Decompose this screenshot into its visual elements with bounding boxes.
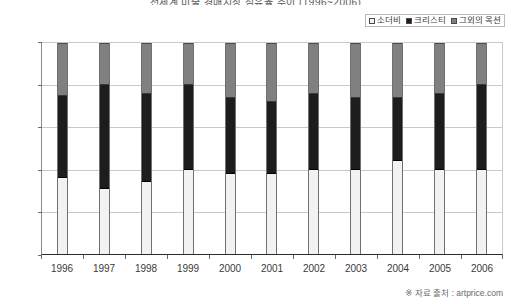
x-axis-tick-text: 1997 bbox=[93, 263, 115, 274]
bar-segment-sothebys[interactable] bbox=[58, 178, 67, 254]
stacked-bar[interactable] bbox=[392, 43, 403, 254]
plot-wrapper: 0%20%40%60%80%100% bbox=[41, 42, 503, 255]
x-axis-tick bbox=[377, 255, 378, 259]
y-axis-tick bbox=[38, 212, 42, 213]
bar-segment-other-auctions[interactable] bbox=[393, 43, 402, 98]
bar-segment-christies[interactable] bbox=[142, 94, 151, 183]
x-axis-tick-text: 1996 bbox=[51, 263, 73, 274]
x-axis-tick-label: 1999 bbox=[167, 255, 209, 281]
x-axis-tick bbox=[335, 255, 336, 259]
x-axis-tick-text: 2000 bbox=[219, 263, 241, 274]
x-axis-tick bbox=[209, 255, 210, 259]
x-axis-tick bbox=[419, 255, 420, 259]
x-axis-tick-text: 1998 bbox=[135, 263, 157, 274]
x-axis-tick bbox=[293, 255, 294, 259]
bar-slot bbox=[126, 43, 168, 254]
x-axis-tick-label: 2003 bbox=[335, 255, 377, 281]
bar-segment-christies[interactable] bbox=[309, 94, 318, 170]
x-axis-tick-label: 2000 bbox=[209, 255, 251, 281]
bar-segment-christies[interactable] bbox=[226, 98, 235, 174]
bar-segment-other-auctions[interactable] bbox=[184, 43, 193, 85]
y-axis-tick bbox=[38, 127, 42, 128]
stacked-bar[interactable] bbox=[308, 43, 319, 254]
x-axis-tick bbox=[83, 255, 84, 259]
bar-segment-sothebys[interactable] bbox=[100, 189, 109, 254]
x-axis-tick-label: 1997 bbox=[83, 255, 125, 281]
x-axis: 1996199719981999200020012002200320042005… bbox=[41, 255, 503, 281]
bar-slot bbox=[335, 43, 377, 254]
bar-slot bbox=[42, 43, 84, 254]
bar-segment-sothebys[interactable] bbox=[351, 170, 360, 254]
bar-segment-christies[interactable] bbox=[184, 85, 193, 169]
x-axis-tick bbox=[461, 255, 462, 259]
bar-group bbox=[42, 43, 502, 254]
bar-slot bbox=[418, 43, 460, 254]
x-axis-tick-text: 2003 bbox=[345, 263, 367, 274]
bar-segment-other-auctions[interactable] bbox=[100, 43, 109, 85]
chart-legend: 소더비 크리스티 그외의 옥션 bbox=[365, 14, 505, 27]
stacked-bar[interactable] bbox=[350, 43, 361, 254]
bar-segment-other-auctions[interactable] bbox=[351, 43, 360, 98]
y-axis-tick bbox=[38, 42, 42, 43]
legend-item-other-auctions[interactable]: 그외의 옥션 bbox=[451, 16, 501, 25]
bar-slot bbox=[293, 43, 335, 254]
bar-segment-other-auctions[interactable] bbox=[309, 43, 318, 94]
x-axis-tick-label: 1996 bbox=[41, 255, 83, 281]
white-swatch-icon bbox=[369, 18, 375, 24]
x-axis-tick-text: 2002 bbox=[303, 263, 325, 274]
x-axis-tick bbox=[125, 255, 126, 259]
bar-segment-other-auctions[interactable] bbox=[142, 43, 151, 94]
stacked-bar[interactable] bbox=[57, 43, 68, 254]
x-axis-tick-text: 2004 bbox=[387, 263, 409, 274]
bar-segment-other-auctions[interactable] bbox=[58, 43, 67, 96]
bar-segment-sothebys[interactable] bbox=[226, 174, 235, 254]
x-axis-tick-label: 2002 bbox=[293, 255, 335, 281]
x-axis-tick bbox=[41, 255, 42, 259]
bar-segment-sothebys[interactable] bbox=[393, 161, 402, 254]
stacked-bar[interactable] bbox=[141, 43, 152, 254]
bar-segment-christies[interactable] bbox=[393, 98, 402, 161]
y-axis-tick bbox=[38, 170, 42, 171]
x-axis-tick-text: 2001 bbox=[261, 263, 283, 274]
x-axis-tick-text: 2006 bbox=[471, 263, 493, 274]
bar-segment-sothebys[interactable] bbox=[267, 174, 276, 254]
bar-segment-sothebys[interactable] bbox=[435, 170, 444, 254]
bar-segment-sothebys[interactable] bbox=[184, 170, 193, 254]
bar-segment-sothebys[interactable] bbox=[142, 182, 151, 254]
legend-label-christies: 크리스티 bbox=[414, 16, 446, 25]
bar-segment-christies[interactable] bbox=[435, 94, 444, 170]
stacked-bar[interactable] bbox=[266, 43, 277, 254]
stacked-bar[interactable] bbox=[183, 43, 194, 254]
x-axis-tick bbox=[502, 255, 503, 259]
bar-segment-christies[interactable] bbox=[267, 102, 276, 174]
x-axis-tick-label: 2001 bbox=[251, 255, 293, 281]
black-swatch-icon bbox=[406, 18, 412, 24]
x-axis-tick-text: 2005 bbox=[429, 263, 451, 274]
bar-segment-christies[interactable] bbox=[58, 96, 67, 178]
bar-slot bbox=[460, 43, 502, 254]
bar-segment-other-auctions[interactable] bbox=[226, 43, 235, 98]
bar-slot bbox=[167, 43, 209, 254]
gray-swatch-icon bbox=[451, 18, 457, 24]
bar-segment-other-auctions[interactable] bbox=[267, 43, 276, 102]
bar-segment-other-auctions[interactable] bbox=[435, 43, 444, 94]
bar-slot bbox=[377, 43, 419, 254]
bar-segment-sothebys[interactable] bbox=[309, 170, 318, 254]
bar-segment-christies[interactable] bbox=[477, 85, 486, 169]
stacked-bar[interactable] bbox=[99, 43, 110, 254]
x-axis-tick-label: 1998 bbox=[125, 255, 167, 281]
stacked-bar[interactable] bbox=[434, 43, 445, 254]
bar-segment-christies[interactable] bbox=[351, 98, 360, 170]
stacked-bar[interactable] bbox=[225, 43, 236, 254]
x-axis-tick-text: 1999 bbox=[177, 263, 199, 274]
stacked-bar-chart: 전세계 미술 경매시장 점유율 추이 (1996~2006) 소더비 크리스티 … bbox=[0, 0, 511, 304]
bar-segment-other-auctions[interactable] bbox=[477, 43, 486, 85]
legend-item-christies[interactable]: 크리스티 bbox=[406, 16, 446, 25]
stacked-bar[interactable] bbox=[476, 43, 487, 254]
x-axis-tick-label: 2004 bbox=[377, 255, 419, 281]
bar-segment-christies[interactable] bbox=[100, 85, 109, 188]
source-note: ※ 자료 출처 : artprice.com bbox=[405, 286, 503, 298]
legend-item-sothebys[interactable]: 소더비 bbox=[369, 16, 401, 25]
chart-title: 전세계 미술 경매시장 점유율 추이 (1996~2006) bbox=[0, 0, 511, 5]
bar-segment-sothebys[interactable] bbox=[477, 170, 486, 254]
